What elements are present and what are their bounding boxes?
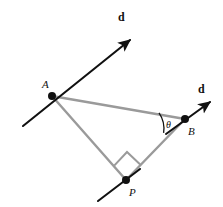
triangle-ABP	[52, 96, 185, 180]
segment-P-B	[126, 119, 185, 180]
right-angle-marker	[114, 152, 140, 166]
geometry-figure: A B P d d θ	[0, 0, 223, 207]
direction-ray-through-A	[23, 40, 130, 126]
vector-label-d-at-A: d	[118, 11, 125, 23]
vector-label-d-at-B: d	[198, 83, 205, 95]
segment-A-B	[52, 96, 185, 119]
point-A-dot	[48, 92, 56, 100]
point-label-P: P	[129, 187, 136, 198]
segment-A-P	[52, 96, 126, 180]
point-P-dot	[122, 176, 130, 184]
figure-drawing-area	[0, 0, 223, 207]
point-B-dot	[181, 115, 189, 123]
point-label-B: B	[188, 126, 195, 137]
point-label-A: A	[42, 79, 49, 90]
angle-label-theta: θ	[166, 120, 171, 130]
